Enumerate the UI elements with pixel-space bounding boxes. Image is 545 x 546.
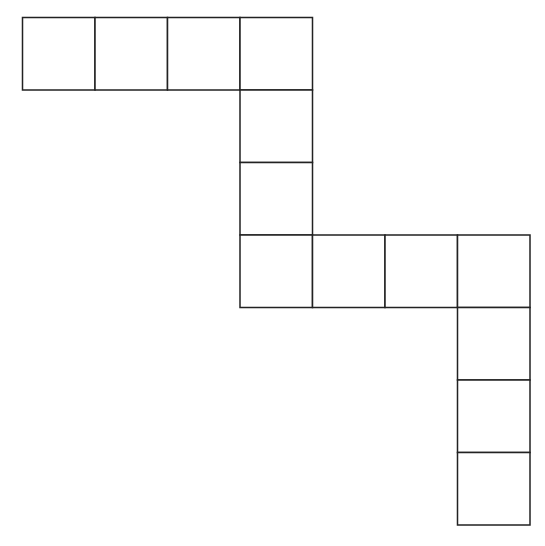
grid-cell-r0-c3 — [240, 18, 313, 91]
grid-cell-r0-c0 — [23, 18, 96, 91]
grid-cell-r0-c2 — [168, 18, 241, 91]
grid-cell-r6-c6 — [458, 453, 531, 526]
grid-cell-r3-c6 — [458, 235, 531, 308]
grid-cell-r5-c6 — [458, 380, 531, 453]
grid-cell-r3-c4 — [313, 235, 386, 308]
grid-cell-r0-c1 — [95, 18, 168, 91]
grid-cell-r2-c3 — [240, 163, 313, 236]
grid-cell-r1-c3 — [240, 90, 313, 163]
grid-cell-r3-c3 — [240, 235, 313, 308]
grid-cell-r4-c6 — [458, 308, 531, 381]
square-net-diagram — [0, 0, 545, 546]
grid-cell-r3-c5 — [385, 235, 458, 308]
